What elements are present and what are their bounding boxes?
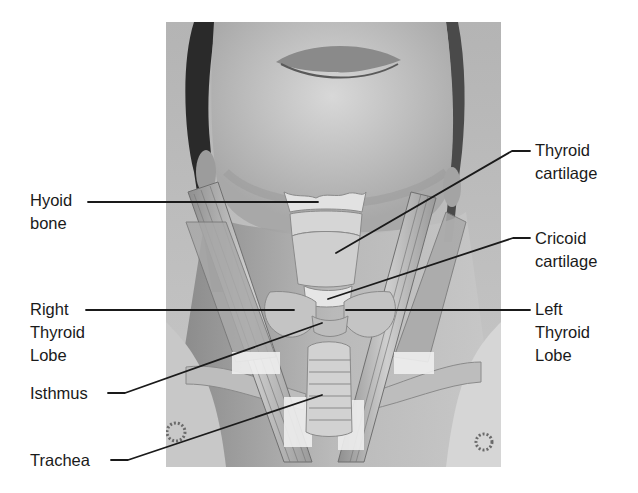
label-thyroid-cartilage: Thyroid cartilage — [535, 139, 597, 185]
label-isthmus-line1: Isthmus — [30, 382, 88, 405]
neck-photo-illustration — [166, 22, 501, 467]
label-trachea: Trachea — [30, 449, 90, 472]
label-cricoid-cartilage-line1: Cricoid — [535, 227, 597, 250]
label-right-thyroid-lobe-line2: Thyroid — [30, 321, 85, 344]
label-right-thyroid-lobe-line1: Right — [30, 298, 85, 321]
neck-illustration-svg — [166, 22, 501, 467]
label-hyoid-bone-line2: bone — [30, 212, 72, 235]
label-left-thyroid-lobe-line1: Left — [535, 298, 590, 321]
thyroid-anatomy-figure: Hyoid bone Right Thyroid Lobe Isthmus Tr… — [0, 0, 638, 493]
label-right-thyroid-lobe: Right Thyroid Lobe — [30, 298, 85, 367]
label-thyroid-cartilage-line2: cartilage — [535, 162, 597, 185]
label-isthmus: Isthmus — [30, 382, 88, 405]
label-right-thyroid-lobe-line3: Lobe — [30, 344, 85, 367]
label-hyoid-bone: Hyoid bone — [30, 189, 72, 235]
label-cricoid-cartilage-line2: cartilage — [535, 250, 597, 273]
label-cricoid-cartilage: Cricoid cartilage — [535, 227, 597, 273]
label-left-thyroid-lobe-line3: Lobe — [535, 344, 590, 367]
label-hyoid-bone-line1: Hyoid — [30, 189, 72, 212]
label-trachea-line1: Trachea — [30, 449, 90, 472]
label-left-thyroid-lobe-line2: Thyroid — [535, 321, 590, 344]
label-thyroid-cartilage-line1: Thyroid — [535, 139, 597, 162]
label-left-thyroid-lobe: Left Thyroid Lobe — [535, 298, 590, 367]
